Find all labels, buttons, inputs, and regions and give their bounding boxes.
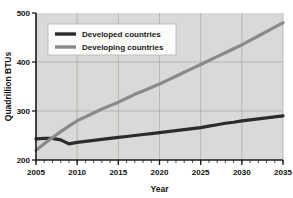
y-axis-title: Quadrillion BTUs: [3, 52, 13, 122]
legend-label-1: Developing countries: [82, 43, 164, 52]
y-axis-tick-label: 500: [17, 9, 31, 18]
chart-figure: 2005201020152020202520302035200300400500…: [0, 0, 293, 198]
x-axis-title: Year: [151, 184, 170, 194]
y-axis-tick-label: 200: [17, 156, 31, 165]
x-axis-tick-label: 2035: [274, 168, 292, 177]
y-axis-tick-label: 300: [17, 107, 31, 116]
energy-consumption-line-chart: 2005201020152020202520302035200300400500…: [0, 0, 293, 198]
x-axis-tick-label: 2025: [192, 168, 210, 177]
x-axis-tick-label: 2005: [27, 168, 45, 177]
legend-label-0: Developed countries: [82, 30, 161, 39]
y-axis-tick-label: 400: [17, 58, 31, 67]
x-axis-tick-label: 2015: [109, 168, 127, 177]
x-axis-tick-label: 2010: [68, 168, 86, 177]
x-axis-tick-label: 2020: [151, 168, 169, 177]
x-axis-tick-label: 2030: [233, 168, 251, 177]
